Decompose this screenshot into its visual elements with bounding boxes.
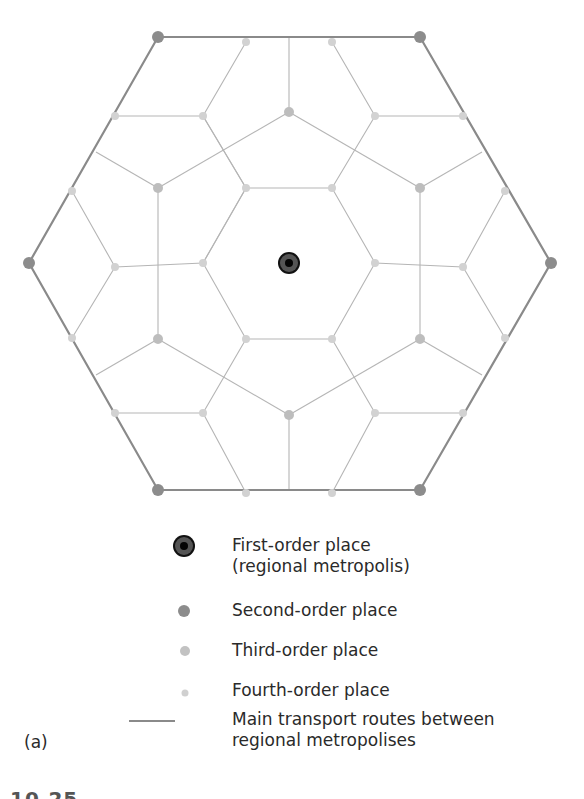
third-order-place-icon: [179, 645, 191, 657]
fourth-order-place-icon: [181, 689, 189, 697]
panel-label: (a): [24, 732, 48, 752]
legend-first-order: First-order place (regional metropolis): [232, 535, 410, 577]
central-place-hexagon-diagram: [0, 0, 584, 520]
transport-route-icon: [129, 718, 175, 724]
legend-second-order: Second-order place: [232, 600, 397, 621]
second-order-place-icon: [177, 604, 191, 618]
legend-third-order: Third-order place: [232, 640, 378, 661]
first-order-place-icon: [172, 534, 196, 558]
first-order-place: [278, 252, 300, 274]
legend-fourth-order: Fourth-order place: [232, 680, 390, 701]
legend-transport-routes: Main transport routes between regional m…: [232, 709, 495, 751]
figure-caption-fragment: 10.25: [10, 782, 78, 799]
